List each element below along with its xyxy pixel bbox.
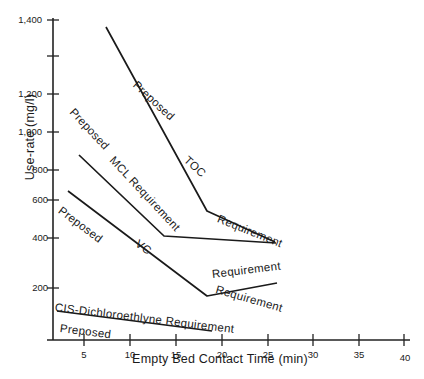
- x-tick-label: 10: [118, 349, 142, 360]
- x-tick-label: 40: [393, 352, 417, 363]
- x-tick-label: 20: [210, 349, 234, 360]
- chart-figure: Use-rate (mg/l) Empty Bed Contact Time (…: [0, 0, 424, 379]
- x-tick-label: 5: [72, 349, 96, 360]
- x-tick-label: 30: [301, 349, 325, 360]
- y-tick-label: 400: [14, 232, 48, 243]
- x-tick-label: 15: [164, 349, 188, 360]
- x-tick-label: 25: [256, 349, 280, 360]
- y-tick-label: 1,400: [8, 14, 42, 25]
- y-tick-label: 1,200: [8, 88, 42, 99]
- y-tick-label: 200: [14, 282, 48, 293]
- series-toc-line: [106, 27, 275, 242]
- y-tick-label: 1,000: [8, 126, 42, 137]
- series-vc-line: [68, 191, 277, 296]
- y-tick-label: 600: [14, 194, 48, 205]
- x-tick-label: 35: [347, 349, 371, 360]
- y-tick-label: 800: [14, 164, 48, 175]
